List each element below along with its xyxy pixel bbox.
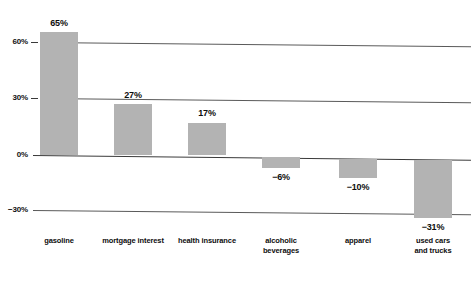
value-label-mortgage-interest: 27%: [108, 90, 158, 100]
ytick-label-60: 60%: [2, 37, 28, 46]
value-label-apparel: −10%: [333, 182, 383, 192]
plot-area: 60% 30% 0% −30% 65% 27% 17% −6% −10% −31…: [0, 0, 471, 281]
ytick-label-minus30: −30%: [0, 205, 28, 214]
bar-used-cars-and-trucks: [414, 160, 452, 218]
ytick-label-0: 0%: [2, 150, 28, 159]
bar-alcoholic-beverages: [262, 157, 300, 168]
gridline-60: [40, 42, 471, 47]
category-label-used-cars-and-trucks: used cars and trucks: [398, 236, 468, 256]
category-label-alcoholic-beverages: alcoholic beverages: [246, 236, 316, 256]
category-label-apparel: apparel: [323, 236, 393, 246]
ytick-dash-60: [31, 42, 38, 43]
value-label-alcoholic-beverages: −6%: [256, 172, 306, 182]
ytick-dash-30: [31, 98, 38, 99]
bar-chart: 60% 30% 0% −30% 65% 27% 17% −6% −10% −31…: [0, 0, 471, 281]
gridline-zero: [33, 155, 471, 161]
category-label-mortgage-interest: mortgage interest: [93, 236, 173, 246]
ytick-label-30: 30%: [2, 93, 28, 102]
value-label-gasoline: 65%: [34, 18, 84, 28]
value-label-used-cars-and-trucks: −31%: [408, 222, 458, 232]
value-label-health-insurance: 17%: [182, 108, 232, 118]
gridline-minus30: [33, 210, 471, 215]
category-label-gasoline: gasoline: [24, 236, 94, 246]
bar-gasoline: [40, 32, 78, 155]
category-label-health-insurance: health insurance: [169, 236, 245, 246]
bar-mortgage-interest: [114, 104, 152, 155]
bar-health-insurance: [188, 123, 226, 155]
gridline-30: [40, 98, 471, 103]
bar-apparel: [339, 159, 377, 178]
